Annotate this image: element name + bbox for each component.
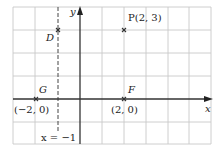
point-g-label: G bbox=[39, 84, 47, 95]
x-axis-arrow-icon bbox=[204, 96, 213, 102]
point-g-coord-label: (−2, 0) bbox=[14, 104, 49, 115]
dashed-line-label: x = −1 bbox=[41, 132, 76, 143]
y-axis-label: y bbox=[69, 6, 76, 17]
x-axis-label: x bbox=[205, 103, 211, 114]
point-d-label: D bbox=[45, 32, 54, 43]
coordinate-plane: x y P(2, 3) D G (−2, 0) F (2, 0) x = −1 bbox=[0, 0, 221, 159]
grid bbox=[13, 7, 211, 144]
point-p-label: P(2, 3) bbox=[128, 12, 162, 23]
point-f-coord-label: (2, 0) bbox=[111, 104, 138, 115]
point-f-label: F bbox=[127, 84, 136, 95]
